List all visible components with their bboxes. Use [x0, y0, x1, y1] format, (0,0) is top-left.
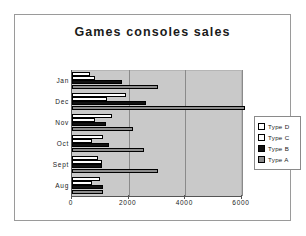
legend-swatch-icon: [258, 134, 265, 141]
bar-group-sept: [72, 154, 242, 175]
legend-item-type-b[interactable]: Type B: [258, 143, 297, 154]
bar-oct-type-d: [72, 135, 103, 139]
bar-sept-type-d: [72, 156, 98, 160]
bar-sept-type-a: [72, 169, 158, 173]
bar-dec-type-c: [72, 97, 107, 101]
y-axis-labels: JanDecNovOctSeptAug: [15, 70, 69, 196]
bar-group-jan: [72, 70, 242, 91]
legend-item-type-c[interactable]: Type C: [258, 132, 297, 143]
legend-label: Type D: [268, 123, 289, 130]
plot-area: [71, 70, 242, 197]
bar-dec-type-d: [72, 93, 126, 97]
bar-oct-type-a: [72, 148, 144, 152]
chart-legend: Type DType CType BType A: [254, 116, 301, 170]
bar-jan-type-d: [72, 72, 90, 76]
legend-swatch-icon: [258, 123, 265, 130]
bar-nov-type-b: [72, 122, 106, 126]
bar-nov-type-c: [72, 118, 95, 122]
legend-item-type-d[interactable]: Type D: [258, 121, 297, 132]
bar-jan-type-b: [72, 80, 122, 84]
y-axis-tick-jan: Jan: [17, 77, 69, 84]
bar-jan-type-c: [72, 76, 95, 80]
bar-group-nov: [72, 112, 242, 133]
bar-aug-type-a: [72, 190, 103, 194]
legend-swatch-icon: [258, 156, 265, 163]
bar-dec-type-a: [72, 106, 245, 110]
y-axis-tick-aug: Aug: [17, 182, 69, 189]
x-axis-tick-6000: 6000: [232, 199, 249, 206]
x-axis-tick-2000: 2000: [119, 199, 136, 206]
chart-frame: Games consoles sales JanDecNovOctSeptAug…: [14, 14, 291, 221]
y-axis-tick-oct: Oct: [17, 140, 69, 147]
bar-sept-type-b: [72, 164, 102, 168]
y-axis-tick-nov: Nov: [17, 119, 69, 126]
bar-group-dec: [72, 91, 242, 112]
bar-sept-type-c: [72, 160, 102, 164]
y-axis-tick-sept: Sept: [17, 161, 69, 168]
bar-oct-type-b: [72, 143, 109, 147]
x-axis-tick-4000: 4000: [176, 199, 193, 206]
y-axis-tick-dec: Dec: [17, 98, 69, 105]
legend-label: Type B: [268, 145, 289, 152]
legend-label: Type A: [268, 156, 289, 163]
bar-aug-type-b: [72, 185, 103, 189]
bar-group-aug: [72, 175, 242, 196]
bar-nov-type-a: [72, 127, 133, 131]
bar-aug-type-d: [72, 177, 100, 181]
gridline-6000: [242, 70, 243, 196]
bar-jan-type-a: [72, 85, 158, 89]
bar-group-oct: [72, 133, 242, 154]
legend-label: Type C: [268, 134, 289, 141]
bar-oct-type-c: [72, 139, 92, 143]
x-axis-tick-0: 0: [69, 199, 73, 206]
chart-title: Games consoles sales: [15, 25, 290, 39]
legend-item-type-a[interactable]: Type A: [258, 154, 297, 165]
bar-aug-type-c: [72, 181, 92, 185]
bar-nov-type-d: [72, 114, 112, 118]
legend-swatch-icon: [258, 145, 265, 152]
bar-dec-type-b: [72, 101, 146, 105]
x-axis-labels: 0200040006000: [71, 199, 241, 213]
